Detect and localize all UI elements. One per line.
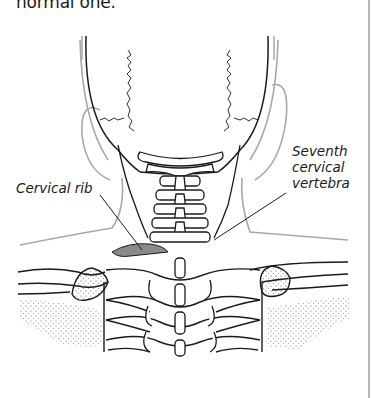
cervical-spine: [138, 152, 223, 242]
cervical-rib-illustration: [0, 0, 371, 398]
thoracic-spine-and-ribs: [104, 269, 262, 352]
cervical-rib-highlight: [112, 244, 168, 257]
skull: [82, 36, 274, 174]
label-seventh-cervical-vertebra: Seventh cervical vertebra: [292, 143, 350, 191]
leader-line-c7: [214, 193, 286, 240]
label-line: vertebra: [292, 175, 350, 191]
label-line: Seventh: [292, 143, 350, 159]
label-cervical-rib: Cervical rib: [16, 180, 93, 196]
label-line: cervical: [292, 159, 350, 175]
